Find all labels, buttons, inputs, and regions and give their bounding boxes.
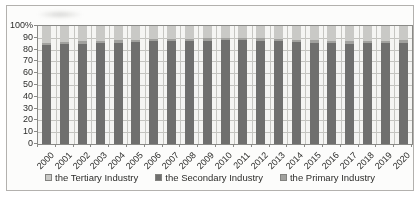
x-axis-tick-mark xyxy=(215,144,216,147)
bar-segment-tertiary xyxy=(185,26,194,39)
v-gridline xyxy=(145,26,146,144)
bar-segment-secondary xyxy=(381,43,390,144)
bar-2016 xyxy=(327,26,336,144)
y-axis-tick-label: 90 xyxy=(7,33,33,42)
bar-segment-secondary xyxy=(60,44,69,144)
bar-segment-tertiary xyxy=(292,26,301,40)
scan-smudge xyxy=(37,10,83,19)
bar-segment-tertiary xyxy=(96,26,105,41)
v-gridline xyxy=(198,26,199,144)
x-axis-tick-mark xyxy=(108,144,109,147)
bar-segment-tertiary xyxy=(327,26,336,41)
v-gridline xyxy=(109,26,110,144)
y-axis-tick-label: 20 xyxy=(7,115,33,124)
bar-segment-secondary xyxy=(310,43,319,144)
legend-item-tertiary: the Tertiary Industry xyxy=(45,172,138,183)
bar-segment-secondary xyxy=(363,43,372,144)
v-gridline xyxy=(252,26,253,144)
plot-area xyxy=(37,25,413,145)
bar-segment-tertiary xyxy=(363,26,372,41)
v-gridline xyxy=(359,26,360,144)
x-axis-tick-mark xyxy=(340,144,341,147)
bar-segment-secondary xyxy=(185,41,194,144)
bar-segment-tertiary xyxy=(42,26,51,43)
bar-2006 xyxy=(149,26,158,144)
bar-2014 xyxy=(292,26,301,144)
bar-segment-tertiary xyxy=(167,26,176,39)
v-gridline xyxy=(91,26,92,144)
v-gridline xyxy=(287,26,288,144)
v-gridline xyxy=(180,26,181,144)
bar-segment-tertiary xyxy=(114,26,123,40)
bar-2020 xyxy=(399,26,408,144)
bar-2013 xyxy=(274,26,283,144)
y-axis-tick-label: 70 xyxy=(7,56,33,65)
bar-segment-tertiary xyxy=(399,26,408,40)
bar-segment-secondary xyxy=(238,40,247,144)
x-axis-tick-mark xyxy=(411,144,412,147)
x-axis-tick-mark xyxy=(90,144,91,147)
y-axis-tick-label: 10 xyxy=(7,127,33,136)
bar-2009 xyxy=(203,26,212,144)
v-gridline xyxy=(163,26,164,144)
v-gridline xyxy=(216,26,217,144)
bar-segment-tertiary xyxy=(381,26,390,41)
x-axis-tick-mark xyxy=(144,144,145,147)
y-axis-tick-label: 40 xyxy=(7,92,33,101)
bar-segment-tertiary xyxy=(203,26,212,38)
y-axis-tick-label: 0 xyxy=(7,139,33,148)
y-axis-tick-label: 80 xyxy=(7,45,33,54)
v-gridline xyxy=(56,26,57,144)
bar-segment-secondary xyxy=(221,40,230,144)
bar-segment-tertiary xyxy=(131,26,140,40)
v-gridline xyxy=(270,26,271,144)
bar-2000 xyxy=(42,26,51,144)
y-axis-tick-label: 30 xyxy=(7,104,33,113)
v-gridline xyxy=(341,26,342,144)
x-axis-tick-mark xyxy=(269,144,270,147)
x-axis-tick-mark xyxy=(358,144,359,147)
bar-2010 xyxy=(221,26,230,144)
legend-marker-primary-icon xyxy=(280,174,287,181)
x-axis-tick-mark xyxy=(286,144,287,147)
bar-segment-secondary xyxy=(345,44,354,144)
legend-item-primary: the Primary Industry xyxy=(280,172,375,183)
bar-segment-secondary xyxy=(327,43,336,144)
legend-marker-secondary-icon xyxy=(155,174,162,181)
bar-2019 xyxy=(381,26,390,144)
bar-segment-tertiary xyxy=(221,26,230,38)
x-axis-tick-mark xyxy=(251,144,252,147)
bar-segment-tertiary xyxy=(60,26,69,42)
bar-2001 xyxy=(60,26,69,144)
bar-2015 xyxy=(310,26,319,144)
y-axis-tick-label: 60 xyxy=(7,68,33,77)
bar-segment-tertiary xyxy=(345,26,354,41)
v-gridline xyxy=(323,26,324,144)
bar-segment-secondary xyxy=(78,44,87,144)
bar-segment-secondary xyxy=(292,42,301,144)
bar-segment-tertiary xyxy=(149,26,158,39)
legend-label-primary: the Primary Industry xyxy=(290,172,375,183)
bar-2007 xyxy=(167,26,176,144)
x-axis-tick-mark xyxy=(126,144,127,147)
bar-segment-tertiary xyxy=(310,26,319,40)
x-axis-tick-mark xyxy=(37,144,38,147)
bar-2011 xyxy=(238,26,247,144)
bar-2002 xyxy=(78,26,87,144)
bar-segment-secondary xyxy=(167,41,176,144)
bar-2005 xyxy=(131,26,140,144)
bar-2017 xyxy=(345,26,354,144)
legend-label-tertiary: the Tertiary Industry xyxy=(55,172,138,183)
bar-segment-secondary xyxy=(256,41,265,144)
bar-2003 xyxy=(96,26,105,144)
legend-marker-tertiary-icon xyxy=(45,174,52,181)
bar-segment-secondary xyxy=(203,41,212,144)
bar-2008 xyxy=(185,26,194,144)
x-axis-tick-mark xyxy=(55,144,56,147)
x-axis-tick-mark xyxy=(375,144,376,147)
bar-segment-secondary xyxy=(96,43,105,144)
bar-2004 xyxy=(114,26,123,144)
v-gridline xyxy=(394,26,395,144)
bar-segment-tertiary xyxy=(238,26,247,38)
bar-segment-tertiary xyxy=(78,26,87,41)
